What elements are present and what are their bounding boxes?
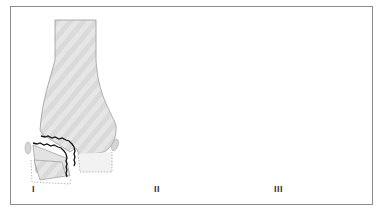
panel-label-iii: III [274, 184, 283, 194]
panel-i-bone [25, 20, 120, 184]
fracture-diagram [0, 0, 382, 217]
panel-label-ii: II [154, 184, 160, 194]
panel-label-i: I [32, 184, 35, 194]
